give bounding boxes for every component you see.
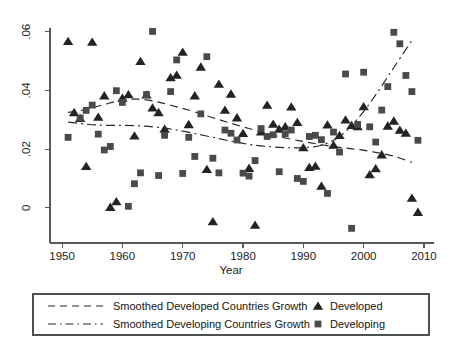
marker-developing: [77, 115, 84, 122]
legend-marker-label: Developing: [330, 318, 385, 330]
marker-developing: [372, 139, 379, 146]
marker-developed: [371, 164, 381, 172]
marker-developing: [131, 180, 138, 187]
marker-developed: [262, 101, 272, 109]
marker-developing: [324, 190, 331, 197]
marker-developing: [336, 149, 343, 156]
marker-developing: [300, 178, 307, 185]
marker-developing: [197, 110, 204, 117]
marker-developing: [185, 134, 192, 141]
x-axis-tick-label: 2000: [351, 250, 377, 262]
marker-developing: [143, 91, 150, 98]
marker-developing: [378, 107, 385, 114]
marker-developed: [93, 113, 103, 121]
plot-area: 0.02.04.06 1950196019701980199020002010 …: [20, 24, 437, 276]
x-axis-tick-label: 1960: [110, 250, 136, 262]
marker-developed: [226, 89, 236, 97]
marker-developed: [413, 208, 423, 216]
marker-developed: [111, 197, 121, 205]
marker-developing: [125, 203, 132, 210]
scatter-chart-figure: 0.02.04.06 1950196019701980199020002010 …: [0, 0, 462, 341]
marker-developing: [65, 134, 72, 141]
x-axis-tick-label: 1980: [230, 250, 256, 262]
y-axis-tick-label: .02: [20, 141, 32, 157]
marker-developing: [390, 29, 397, 36]
x-axis: 1950196019701980199020002010: [49, 243, 436, 262]
marker-developed: [214, 79, 224, 87]
marker-developed: [220, 105, 230, 113]
marker-developing: [396, 40, 403, 47]
marker-developing: [119, 99, 126, 106]
marker-developing: [161, 132, 168, 139]
marker-developing: [402, 72, 409, 79]
marker-developed: [196, 62, 206, 70]
marker-developing: [155, 172, 162, 179]
x-axis-tick-label: 2010: [411, 250, 437, 262]
marker-developing: [252, 157, 259, 164]
marker-developing: [173, 57, 180, 64]
legend-line-label: Smoothed Developed Countries Growth: [113, 300, 307, 312]
marker-developing: [342, 71, 349, 78]
marker-developing: [83, 107, 90, 114]
marker-developing: [167, 88, 174, 95]
marker-developing: [306, 133, 313, 140]
y-axis-tick-label: .06: [20, 24, 32, 40]
marker-developed: [298, 143, 308, 151]
marker-developing: [276, 168, 283, 175]
marker-developing: [330, 129, 337, 136]
marker-developing: [288, 127, 295, 134]
marker-developed: [328, 140, 338, 148]
chart-legend: Smoothed Developed Countries GrowthDevel…: [33, 294, 429, 335]
marker-developed: [178, 47, 188, 55]
y-axis: 0.02.04.06: [20, 24, 50, 243]
marker-developed: [135, 57, 145, 65]
marker-developing: [222, 127, 229, 134]
marker-developing: [270, 131, 277, 138]
marker-developing: [318, 136, 325, 143]
marker-developed: [310, 162, 320, 170]
marker-developing: [137, 169, 144, 176]
marker-developing: [209, 155, 216, 162]
marker-developed: [389, 116, 399, 124]
marker-developed: [407, 194, 417, 202]
data-point-markers: [63, 28, 423, 232]
marker-developed: [250, 221, 260, 229]
marker-developing: [179, 170, 186, 177]
marker-developing: [366, 123, 373, 130]
marker-developing: [234, 137, 241, 144]
marker-developed: [202, 165, 212, 173]
marker-developing: [348, 225, 355, 232]
marker-developing: [354, 121, 361, 128]
legend-marker-label: Developed: [330, 300, 383, 312]
marker-developing: [101, 147, 108, 154]
y-axis-tick-label: .04: [20, 82, 32, 99]
marker-developed: [238, 129, 248, 137]
marker-developed: [292, 118, 302, 126]
marker-developing: [228, 130, 235, 137]
marker-developing: [191, 153, 198, 160]
marker-developed: [123, 90, 133, 98]
marker-developing: [95, 131, 102, 138]
legend-line-label: Smoothed Developing Countries Growth: [113, 318, 310, 330]
marker-developing: [360, 69, 367, 76]
marker-developed: [87, 37, 97, 45]
marker-developed: [340, 115, 350, 123]
legend-marker-developing: [315, 321, 322, 328]
x-axis-tick-label: 1990: [291, 250, 317, 262]
marker-developed: [286, 102, 296, 110]
x-axis-tick-label: 1970: [170, 250, 196, 262]
marker-developed: [147, 103, 157, 111]
marker-developing: [409, 88, 416, 95]
marker-developing: [89, 102, 96, 109]
x-axis-title: Year: [219, 264, 242, 276]
marker-developing: [264, 133, 271, 140]
marker-developed: [268, 120, 278, 128]
marker-developing: [149, 28, 156, 35]
marker-developed: [190, 91, 200, 99]
marker-developing: [107, 143, 114, 150]
marker-developing: [312, 132, 319, 139]
marker-developed: [316, 181, 326, 189]
marker-developing: [240, 170, 247, 177]
marker-developed: [99, 91, 109, 99]
marker-developing: [294, 175, 301, 182]
